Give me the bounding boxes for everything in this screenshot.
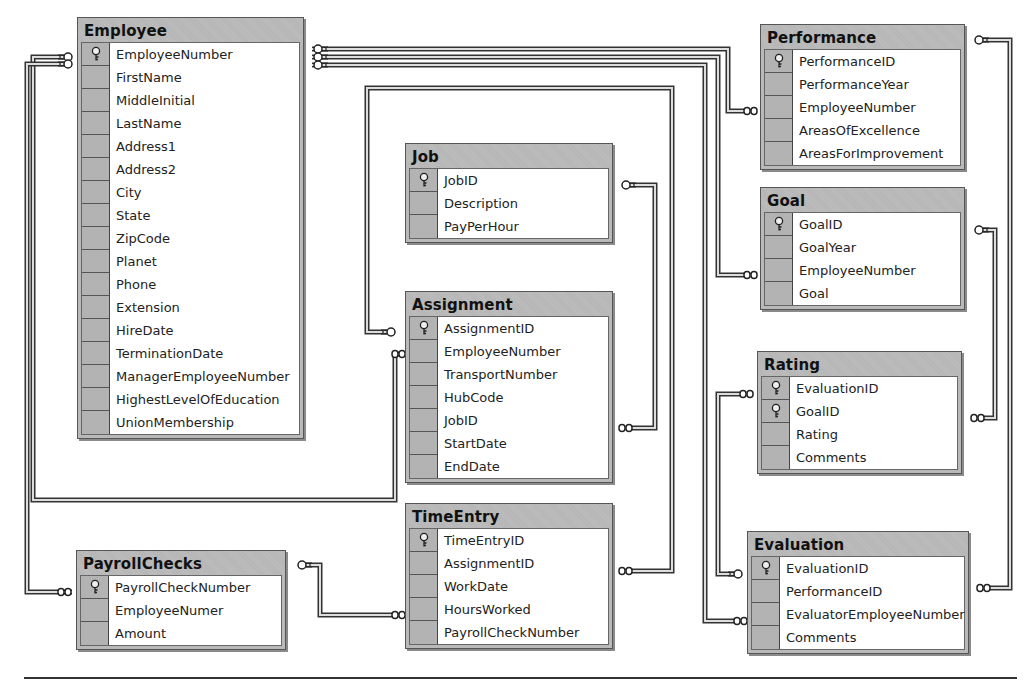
field-row[interactable]: HubCode <box>410 386 608 409</box>
field-row[interactable]: EmployeeNumber <box>410 340 608 363</box>
field-row[interactable]: ManagerEmployeeNumber <box>82 365 299 388</box>
row-selector[interactable] <box>410 529 438 552</box>
row-selector[interactable] <box>762 377 790 400</box>
row-selector[interactable] <box>82 112 110 135</box>
row-selector[interactable] <box>410 192 438 215</box>
row-selector[interactable] <box>82 365 110 388</box>
row-selector[interactable] <box>765 213 793 236</box>
field-row[interactable]: PerformanceID <box>765 50 960 73</box>
field-row[interactable]: Address2 <box>82 158 299 181</box>
row-selector[interactable] <box>82 227 110 250</box>
field-row[interactable]: Phone <box>82 273 299 296</box>
row-selector[interactable] <box>82 43 110 66</box>
field-row[interactable]: Comments <box>762 446 957 469</box>
field-row[interactable]: EvaluationID <box>762 377 957 400</box>
field-row[interactable]: Comments <box>752 626 964 649</box>
field-row[interactable]: PayrollCheckNumber <box>81 576 281 599</box>
table-payrollchecks[interactable]: PayrollChecks PayrollCheckNumberEmployee… <box>76 550 286 650</box>
row-selector[interactable] <box>82 342 110 365</box>
row-selector[interactable] <box>82 411 110 434</box>
field-row[interactable]: GoalID <box>765 213 960 236</box>
row-selector[interactable] <box>82 319 110 342</box>
field-row[interactable]: HireDate <box>82 319 299 342</box>
field-row[interactable]: PerformanceID <box>752 580 964 603</box>
field-row[interactable]: EndDate <box>410 455 608 478</box>
row-selector[interactable] <box>81 599 109 622</box>
field-row[interactable]: EvaluatorEmployeeNumber <box>752 603 964 626</box>
table-evaluation[interactable]: Evaluation EvaluationIDPerformanceIDEval… <box>747 531 969 654</box>
row-selector[interactable] <box>410 455 438 478</box>
row-selector[interactable] <box>752 626 780 649</box>
row-selector[interactable] <box>410 552 438 575</box>
row-selector[interactable] <box>752 603 780 626</box>
field-row[interactable]: AreasForImprovement <box>765 142 960 165</box>
field-row[interactable]: WorkDate <box>410 575 608 598</box>
field-row[interactable]: Goal <box>765 282 960 305</box>
field-row[interactable]: HoursWorked <box>410 598 608 621</box>
row-selector[interactable] <box>82 388 110 411</box>
field-row[interactable]: HighestLevelOfEducation <box>82 388 299 411</box>
row-selector[interactable] <box>82 273 110 296</box>
row-selector[interactable] <box>410 363 438 386</box>
row-selector[interactable] <box>762 446 790 469</box>
field-row[interactable]: Description <box>410 192 608 215</box>
table-employee[interactable]: Employee EmployeeNumberFirstNameMiddleIn… <box>77 17 304 439</box>
row-selector[interactable] <box>82 181 110 204</box>
row-selector[interactable] <box>765 119 793 142</box>
table-timeentry[interactable]: TimeEntry TimeEntryIDAssignmentIDWorkDat… <box>405 503 613 649</box>
field-row[interactable]: PerformanceYear <box>765 73 960 96</box>
field-row[interactable]: Extension <box>82 296 299 319</box>
field-row[interactable]: TransportNumber <box>410 363 608 386</box>
field-row[interactable]: FirstName <box>82 66 299 89</box>
field-row[interactable]: AssignmentID <box>410 552 608 575</box>
field-row[interactable]: LastName <box>82 112 299 135</box>
row-selector[interactable] <box>82 66 110 89</box>
row-selector[interactable] <box>410 317 438 340</box>
row-selector[interactable] <box>410 432 438 455</box>
table-goal[interactable]: Goal GoalIDGoalYearEmployeeNumberGoal <box>760 187 965 310</box>
field-row[interactable]: Planet <box>82 250 299 273</box>
row-selector[interactable] <box>82 135 110 158</box>
field-row[interactable]: AreasOfExcellence <box>765 119 960 142</box>
field-row[interactable]: EmployeeNumber <box>82 43 299 66</box>
field-row[interactable]: AssignmentID <box>410 317 608 340</box>
row-selector[interactable] <box>762 400 790 423</box>
row-selector[interactable] <box>752 557 780 580</box>
field-row[interactable]: MiddleInitial <box>82 89 299 112</box>
row-selector[interactable] <box>765 96 793 119</box>
row-selector[interactable] <box>82 204 110 227</box>
row-selector[interactable] <box>410 340 438 363</box>
field-row[interactable]: TerminationDate <box>82 342 299 365</box>
field-row[interactable]: UnionMembership <box>82 411 299 434</box>
row-selector[interactable] <box>765 282 793 305</box>
table-rating[interactable]: Rating EvaluationIDGoalIDRatingComments <box>757 351 962 474</box>
field-row[interactable]: EmployeeNumber <box>765 96 960 119</box>
row-selector[interactable] <box>410 169 438 192</box>
field-row[interactable]: PayrollCheckNumber <box>410 621 608 644</box>
field-row[interactable]: JobID <box>410 169 608 192</box>
row-selector[interactable] <box>82 250 110 273</box>
row-selector[interactable] <box>82 89 110 112</box>
field-row[interactable]: State <box>82 204 299 227</box>
table-performance[interactable]: Performance PerformanceIDPerformanceYear… <box>760 24 965 170</box>
row-selector[interactable] <box>765 236 793 259</box>
row-selector[interactable] <box>765 142 793 165</box>
row-selector[interactable] <box>410 621 438 644</box>
table-assignment[interactable]: Assignment AssignmentIDEmployeeNumberTra… <box>405 291 613 483</box>
row-selector[interactable] <box>752 580 780 603</box>
field-row[interactable]: TimeEntryID <box>410 529 608 552</box>
field-row[interactable]: EmployeeNumber <box>765 259 960 282</box>
field-row[interactable]: StartDate <box>410 432 608 455</box>
field-row[interactable]: City <box>82 181 299 204</box>
field-row[interactable]: GoalID <box>762 400 957 423</box>
row-selector[interactable] <box>81 622 109 645</box>
row-selector[interactable] <box>82 158 110 181</box>
row-selector[interactable] <box>765 259 793 282</box>
row-selector[interactable] <box>410 386 438 409</box>
row-selector[interactable] <box>410 409 438 432</box>
row-selector[interactable] <box>765 50 793 73</box>
field-row[interactable]: ZipCode <box>82 227 299 250</box>
row-selector[interactable] <box>410 575 438 598</box>
field-row[interactable]: PayPerHour <box>410 215 608 238</box>
field-row[interactable]: EmployeeNumer <box>81 599 281 622</box>
